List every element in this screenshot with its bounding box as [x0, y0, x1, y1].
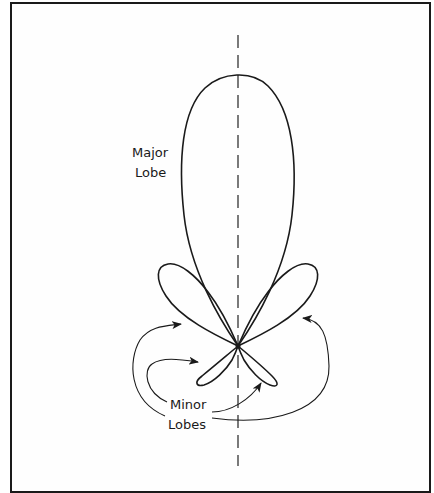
- major-lobe-label-line2: Lobe: [132, 163, 168, 183]
- minor-lobes-label-line2: Lobes: [168, 415, 206, 435]
- major-lobe-label-line1: Major: [132, 143, 168, 163]
- minor-lobe-upper-left: [158, 264, 238, 346]
- minor-lobe-lower-left: [197, 346, 238, 385]
- arrow-to-lower-right-lobe: [212, 383, 261, 412]
- origin-point: [236, 344, 241, 349]
- minor-lobe-upper-right: [238, 264, 318, 346]
- minor-lobes-label: Minor Lobes: [168, 395, 206, 435]
- minor-lobes-label-line1: Minor: [168, 395, 206, 415]
- minor-lobe-lower-right: [238, 346, 277, 386]
- major-lobe-label: Major Lobe: [132, 143, 168, 183]
- radiation-pattern-diagram: [0, 0, 434, 493]
